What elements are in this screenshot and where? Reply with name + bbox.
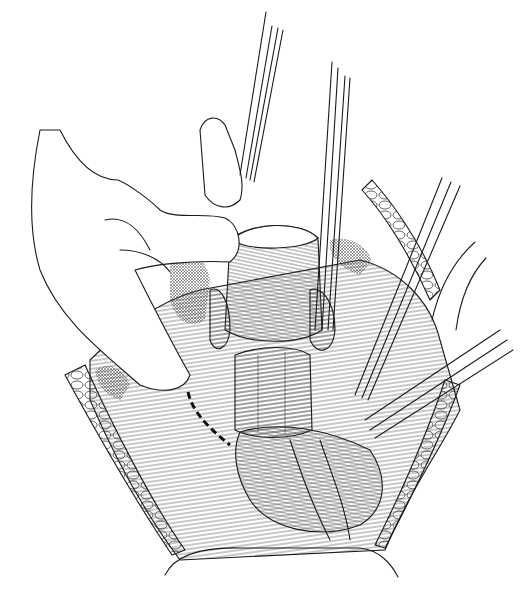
tissue-bundle: [235, 348, 312, 438]
retractor-left: [240, 12, 283, 182]
right-outline: [432, 242, 486, 330]
illustration-svg: [0, 0, 529, 591]
surgical-illustration: [0, 0, 529, 591]
